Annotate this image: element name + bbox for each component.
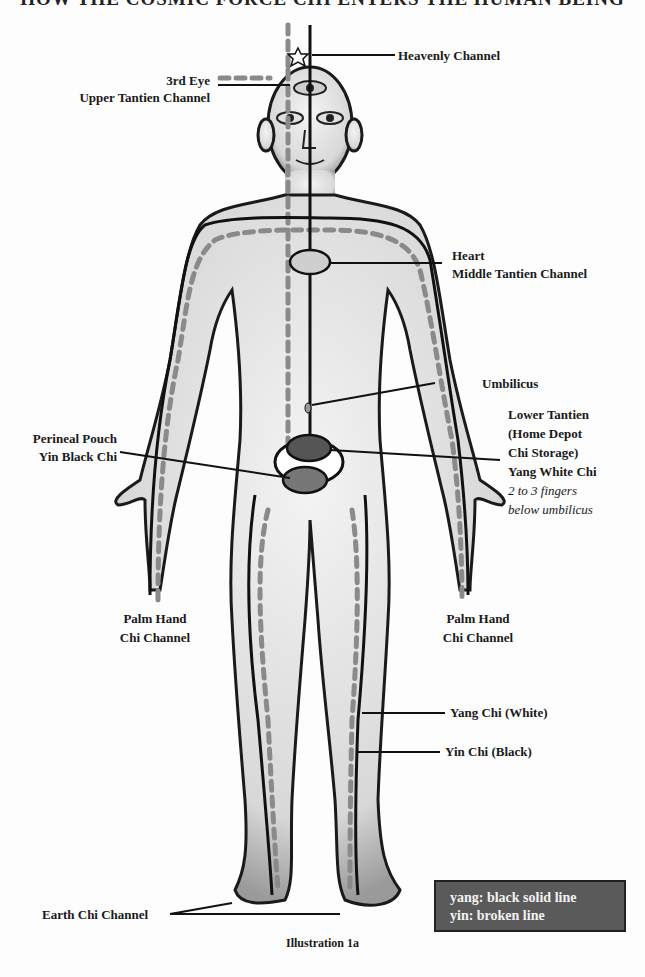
- perineal-center: [283, 467, 327, 493]
- label-yin-black-chi: Yin Black Chi: [0, 449, 117, 465]
- label-umbilicus: Umbilicus: [482, 376, 538, 392]
- label-middle-tantien: Middle Tantien Channel: [452, 266, 587, 282]
- crown-star-icon: [288, 48, 308, 66]
- label-palm-left-1: Palm Hand: [95, 611, 215, 627]
- label-home-depot: (Home Depot: [508, 426, 582, 442]
- label-yang-chi-white: Yang Chi (White): [450, 705, 548, 721]
- label-lower-tantien: Lower Tantien: [508, 407, 589, 423]
- lower-tantien-center: [287, 435, 331, 461]
- legend-yang: yang: black solid line: [450, 889, 624, 907]
- label-palm-right-1: Palm Hand: [418, 611, 538, 627]
- label-earth-chi-channel: Earth Chi Channel: [42, 907, 148, 923]
- illustration-caption: Illustration 1a: [0, 936, 645, 951]
- label-fingers-note-1: 2 to 3 fingers: [508, 483, 577, 498]
- label-yang-white-chi: Yang White Chi: [508, 464, 597, 480]
- label-chi-storage: Chi Storage): [508, 445, 578, 461]
- heart-center: [290, 250, 330, 274]
- umbilicus-point: [305, 403, 311, 413]
- label-palm-left-2: Chi Channel: [95, 630, 215, 646]
- label-yin-chi-black: Yin Chi (Black): [445, 744, 532, 760]
- label-perineal-pouch: Perineal Pouch: [0, 431, 117, 447]
- legend-yin: yin: broken line: [450, 907, 624, 925]
- label-third-eye: 3rd Eye: [40, 73, 210, 89]
- label-fingers-note-2: below umbilicus: [508, 502, 593, 517]
- label-palm-right-2: Chi Channel: [418, 630, 538, 646]
- legend-box: yang: black solid line yin: broken line: [434, 880, 626, 932]
- label-heavenly-channel: Heavenly Channel: [398, 48, 500, 64]
- label-heart: Heart: [452, 248, 484, 264]
- label-upper-tantien: Upper Tantien Channel: [40, 90, 210, 106]
